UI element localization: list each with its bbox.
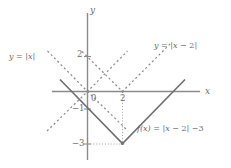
curve-label-abs-x: y = |x| [9,53,35,61]
y-tick-label-neg1: −1 [72,104,85,113]
y-tick-label-neg3: −3 [72,139,85,148]
curve-label-f-arg: (x) [140,124,151,133]
curve-label-f-tail: − 2| −3 [170,124,204,133]
origin-marker [86,90,88,92]
y-axis-label: y [90,6,95,15]
curve-label-f-eq: = | [151,124,165,133]
x-tick-label-2: 2 [120,94,125,103]
graph-canvas [0,0,231,168]
curve-label-abs-x-minus-2: y = |x − 2| [154,42,197,50]
curve-label-abs-x-eq: = | [14,52,28,61]
curve-label-abs-x-minus-2-tail: − 2| [178,41,198,50]
graph-figure: x y 0 2 2 −1 −3 y = |x| y = |x − 2| f(x)… [0,0,231,168]
curve-label-f-of-x: f(x) = |x − 2| −3 [137,125,204,133]
vertex-marker [121,142,124,145]
curve-label-abs-x-minus-2-eq: = | [159,41,173,50]
curve-label-abs-x-tail: | [33,52,36,61]
x-axis-label: x [205,87,210,96]
x-tick-label-0: 0 [91,94,96,103]
y-tick-label-2: 2 [77,50,82,59]
